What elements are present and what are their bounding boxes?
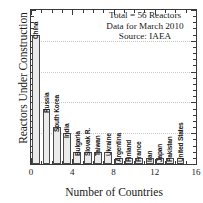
annotation-line-source: Source: IAEA <box>96 31 194 42</box>
gridline <box>31 72 196 73</box>
y-tick-right-minor <box>193 47 196 48</box>
y-tick-right-minor <box>193 90 196 91</box>
y-tick-right-major <box>191 164 196 165</box>
y-tick-right-minor <box>193 65 196 66</box>
y-tick-right-minor <box>193 121 196 122</box>
x-tick-label: 12 <box>143 168 167 177</box>
x-tick-major <box>196 159 197 164</box>
bar-label: United States <box>177 123 184 163</box>
x-tick-top-minor <box>52 10 53 13</box>
annotation-block: Total = 56 Reactors Data for March 2010 … <box>96 10 194 42</box>
y-tick-right-minor <box>193 109 196 110</box>
x-tick-top-minor <box>62 10 63 13</box>
y-tick-right-major <box>191 102 196 103</box>
x-tick-top-major <box>196 10 197 15</box>
x-tick-top-minor <box>83 10 84 13</box>
y-tick-right-minor <box>193 146 196 147</box>
bar-label: Japan <box>156 144 163 162</box>
y-tick-right-minor <box>193 152 196 153</box>
x-tick-label: 0 <box>19 168 43 177</box>
bar-label: Slovak R. <box>84 128 91 156</box>
y-tick-right-minor <box>193 96 196 97</box>
bar-label: South Korea <box>53 95 60 132</box>
bar-label: India <box>63 123 70 137</box>
bar-label: Russia <box>43 93 50 113</box>
reactors-under-construction-chart: Reactors Under Construction Number of Co… <box>0 0 203 203</box>
bar-label: Ukraine <box>105 133 112 156</box>
y-tick-major <box>31 164 36 165</box>
y-tick-right-major <box>191 72 196 73</box>
y-tick-right-minor <box>193 78 196 79</box>
bar-label: Pakistan <box>166 137 173 163</box>
x-tick-label: 16 <box>184 168 203 177</box>
x-axis-title: Number of Countries <box>28 186 200 198</box>
x-tick-minor <box>186 161 187 164</box>
y-tick-right-minor <box>193 139 196 140</box>
bar-russia <box>43 109 51 164</box>
x-tick-label: 8 <box>102 168 126 177</box>
annotation-line-date: Data for March 2010 <box>96 21 194 32</box>
x-tick-top-minor <box>41 10 42 13</box>
y-tick-right-minor <box>193 53 196 54</box>
y-axis-title: Reactors Under Construction <box>17 3 29 153</box>
y-tick-right-minor <box>193 115 196 116</box>
bar-label: Bulgaria <box>74 131 81 156</box>
x-tick-top-minor <box>93 10 94 13</box>
bar-label: Argentina <box>115 133 122 162</box>
y-tick-right-minor <box>193 84 196 85</box>
bar-label: China <box>32 22 39 39</box>
x-tick-top-major <box>72 10 73 15</box>
x-tick-label: 4 <box>60 168 84 177</box>
y-tick-minor <box>31 16 34 17</box>
bar-label: Iran <box>146 151 153 162</box>
x-tick-top-major <box>31 10 32 15</box>
bar-label: Taiwan <box>94 136 101 157</box>
y-tick-right-major <box>191 133 196 134</box>
bar-label: Finland <box>125 140 132 162</box>
bar-south-korea <box>53 127 61 164</box>
bar-china <box>32 35 40 164</box>
bar-label: France <box>135 142 142 162</box>
y-tick-right-minor <box>193 59 196 60</box>
annotation-line-total: Total = 56 Reactors <box>96 10 194 21</box>
y-tick-right-minor <box>193 127 196 128</box>
